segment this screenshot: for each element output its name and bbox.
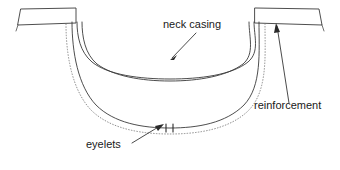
label-neck-casing: neck casing (163, 18, 221, 30)
diagram-canvas: neck casing reinforcement eyelets (0, 0, 340, 170)
right-shoulder-band-outline (255, 8, 322, 25)
reinforcement-arrow-icon (274, 23, 280, 33)
right-shoulder-band-edge-tail (322, 25, 324, 31)
reinforcement-leader (274, 23, 289, 103)
neck-casing-leader (170, 33, 196, 60)
reinforcement-leader-line (277, 26, 289, 103)
label-reinforcement: reinforcement (254, 99, 321, 111)
garment-technical-drawing: neck casing reinforcement eyelets (0, 0, 340, 170)
neck-casing-outer-line (82, 22, 251, 81)
eyelets-leader-line (132, 126, 160, 143)
outer-edge-curve (72, 22, 259, 128)
outer-neckline-edge (72, 22, 259, 128)
right-shoulder-band (255, 8, 324, 31)
left-shoulder-band-edge-tail (16, 25, 18, 31)
neck-casing-inner-line (77, 22, 256, 79)
neck-casing (77, 22, 256, 81)
label-eyelets: eyelets (86, 138, 121, 150)
left-shoulder-band (16, 8, 76, 31)
neck-casing-arrow-icon (170, 55, 177, 60)
neck-casing-leader-line (172, 33, 196, 58)
left-shoulder-band-outline (18, 8, 76, 25)
